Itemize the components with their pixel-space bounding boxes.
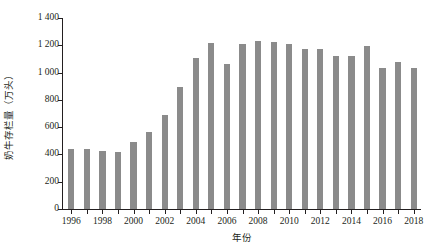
bar-1999 xyxy=(115,152,121,209)
bar-2013 xyxy=(333,56,339,209)
x-tick-mark xyxy=(367,210,368,214)
x-tick-label-2008: 2008 xyxy=(249,215,268,228)
x-tick-mark xyxy=(134,210,135,214)
x-tick-mark xyxy=(336,210,337,214)
bar-series xyxy=(62,18,420,209)
x-tick-mark xyxy=(211,210,212,214)
x-tick-mark xyxy=(180,210,181,214)
x-tick-mark xyxy=(149,210,150,214)
x-tick-mark xyxy=(398,210,399,214)
bar-2018 xyxy=(411,68,417,209)
x-tick-label-2016: 2016 xyxy=(373,215,392,228)
x-tick-mark xyxy=(243,210,244,214)
bar-2016 xyxy=(379,68,385,209)
bar-2008 xyxy=(255,41,261,209)
bar-2014 xyxy=(348,56,354,209)
bar-chart: 奶牛存栏量（万头） 02004006008001 0001 2001 400 1… xyxy=(0,0,431,252)
x-tick-label-2004: 2004 xyxy=(186,215,205,228)
bar-2015 xyxy=(364,46,370,209)
bar-2005 xyxy=(208,43,214,209)
x-tick-mark xyxy=(118,210,119,214)
bar-2012 xyxy=(317,49,323,209)
x-tick-mark xyxy=(227,210,228,214)
y-tick-label: 0 xyxy=(54,202,59,215)
bar-1998 xyxy=(99,151,105,209)
x-tick-mark xyxy=(274,210,275,214)
bar-1997 xyxy=(84,149,90,209)
bar-2009 xyxy=(271,42,277,209)
x-tick-mark xyxy=(351,210,352,214)
x-tick-label-2010: 2010 xyxy=(280,215,299,228)
x-tick-label-2006: 2006 xyxy=(217,215,236,228)
bar-2010 xyxy=(286,44,292,209)
x-tick-label-2002: 2002 xyxy=(155,215,174,228)
bar-2006 xyxy=(224,64,230,209)
y-tick-label: 1 400 xyxy=(38,11,59,24)
bar-2011 xyxy=(302,49,308,209)
x-tick-mark xyxy=(305,210,306,214)
y-tick-label: 1 200 xyxy=(38,38,59,51)
bar-2002 xyxy=(162,115,168,209)
x-axis: 1996199820002002200420062008201020122014… xyxy=(62,210,421,232)
x-tick-mark xyxy=(289,210,290,214)
y-tick-label: 400 xyxy=(45,147,59,160)
bar-1996 xyxy=(68,149,74,209)
y-tick-label: 200 xyxy=(45,175,59,188)
y-axis-title: 奶牛存栏量（万头） xyxy=(2,19,16,210)
x-tick-label-2014: 2014 xyxy=(342,215,361,228)
x-tick-mark xyxy=(383,210,384,214)
x-tick-label-1998: 1998 xyxy=(93,215,112,228)
bar-2004 xyxy=(193,58,199,209)
x-tick-mark xyxy=(196,210,197,214)
x-tick-label-2012: 2012 xyxy=(311,215,330,228)
bar-2001 xyxy=(146,132,152,209)
x-tick-label-1996: 1996 xyxy=(62,215,81,228)
x-tick-mark xyxy=(87,210,88,214)
bar-2003 xyxy=(177,87,183,209)
y-tick-label: 800 xyxy=(45,93,59,106)
x-tick-mark xyxy=(71,210,72,214)
x-axis-title: 年份 xyxy=(62,231,421,245)
y-tick-label: 1 000 xyxy=(38,66,59,79)
x-tick-label-2000: 2000 xyxy=(124,215,143,228)
x-tick-mark xyxy=(165,210,166,214)
x-tick-label-2018: 2018 xyxy=(404,215,423,228)
x-tick-mark xyxy=(258,210,259,214)
bar-2007 xyxy=(239,44,245,209)
x-tick-mark xyxy=(414,210,415,214)
bar-2017 xyxy=(395,62,401,209)
bar-2000 xyxy=(130,142,136,209)
y-tick-label: 600 xyxy=(45,120,59,133)
x-tick-mark xyxy=(102,210,103,214)
x-tick-mark xyxy=(320,210,321,214)
